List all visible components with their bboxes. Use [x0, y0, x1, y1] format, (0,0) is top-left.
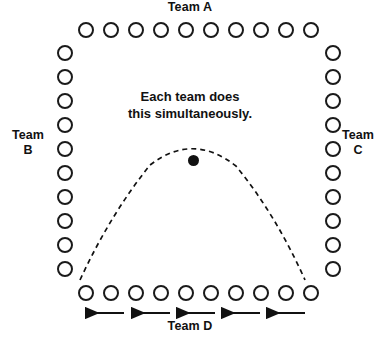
player-circle-c-6	[325, 165, 341, 181]
player-circle-c-10	[325, 261, 341, 277]
player-circle-c-1	[325, 45, 341, 61]
player-circle-d-9	[278, 285, 294, 301]
player-circle-c-9	[325, 237, 341, 253]
center-note-text: Each team does this simultaneously.	[90, 88, 290, 122]
player-circle-d-3	[128, 285, 144, 301]
team-b-label: Team B	[4, 128, 52, 158]
player-circle-d-7	[228, 285, 244, 301]
player-circle-b-2	[57, 69, 73, 85]
player-circle-b-10	[57, 261, 73, 277]
player-circle-b-4	[57, 117, 73, 133]
ball-trajectory-arc	[80, 149, 305, 280]
player-circle-a-6	[203, 22, 219, 38]
player-circle-a-9	[278, 22, 294, 38]
player-circle-d-5	[178, 285, 194, 301]
player-circle-a-2	[103, 22, 119, 38]
player-circle-c-2	[325, 69, 341, 85]
player-circle-c-8	[325, 213, 341, 229]
player-circle-b-1	[57, 45, 73, 61]
player-circle-b-5	[57, 141, 73, 157]
player-circle-b-7	[57, 189, 73, 205]
player-circle-b-3	[57, 93, 73, 109]
player-circle-a-5	[178, 22, 194, 38]
player-circle-b-8	[57, 213, 73, 229]
player-circle-d-4	[153, 285, 169, 301]
player-circle-d-1	[78, 285, 94, 301]
team-formation-diagram: Team A Team B Team C Team D Each team do…	[0, 0, 380, 342]
ball-icon	[188, 155, 199, 166]
player-circle-d-10	[303, 285, 319, 301]
player-circle-d-2	[103, 285, 119, 301]
player-circle-a-10	[303, 22, 319, 38]
player-circle-a-4	[153, 22, 169, 38]
player-circle-c-5	[325, 141, 341, 157]
player-circle-a-8	[253, 22, 269, 38]
player-circle-b-9	[57, 237, 73, 253]
team-d-label: Team D	[140, 319, 240, 334]
player-circle-a-7	[228, 22, 244, 38]
player-circle-d-6	[203, 285, 219, 301]
player-circle-b-6	[57, 165, 73, 181]
player-circle-d-8	[253, 285, 269, 301]
player-circle-c-4	[325, 117, 341, 133]
player-circle-c-7	[325, 189, 341, 205]
player-circle-a-1	[78, 22, 94, 38]
team-a-label: Team A	[140, 0, 240, 15]
player-circle-c-3	[325, 93, 341, 109]
team-c-label: Team C	[336, 128, 380, 158]
player-circle-a-3	[128, 22, 144, 38]
